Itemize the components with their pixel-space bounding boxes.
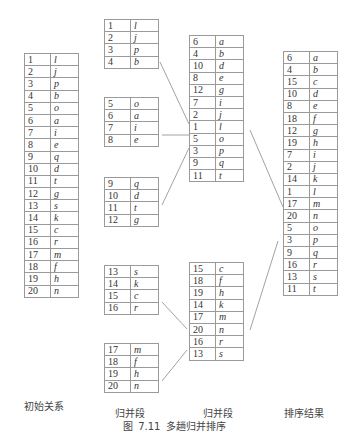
table-row: 13s bbox=[105, 266, 159, 278]
record-key: 5 bbox=[284, 222, 310, 234]
record-key: 3 bbox=[25, 78, 51, 90]
record-key: 1 bbox=[190, 121, 216, 133]
record-key: 20 bbox=[105, 380, 131, 392]
table-row: 9q bbox=[284, 247, 338, 259]
table-row: 18f bbox=[190, 275, 244, 287]
record-value: h bbox=[131, 368, 159, 380]
record-key: 17 bbox=[190, 311, 216, 323]
record-value: d bbox=[216, 60, 244, 72]
run-table-3: 9q10d11t12g bbox=[104, 177, 159, 227]
record-value: t bbox=[216, 170, 244, 182]
record-value: d bbox=[131, 190, 159, 202]
run-table-4: 13s14k15c16r bbox=[104, 265, 159, 315]
table-row: 14k bbox=[25, 212, 79, 224]
record-value: t bbox=[131, 202, 159, 214]
record-key: 5 bbox=[190, 133, 216, 145]
record-key: 6 bbox=[25, 114, 51, 126]
record-key: 16 bbox=[105, 302, 131, 314]
record-value: b bbox=[216, 48, 244, 60]
table-row: 7i bbox=[284, 149, 338, 161]
table-row: 15c bbox=[284, 76, 338, 88]
table-row: 16r bbox=[105, 302, 159, 314]
table-row: 5o bbox=[190, 133, 244, 145]
record-value: j bbox=[131, 32, 159, 44]
table-row: 17m bbox=[190, 311, 244, 323]
table-row: 7i bbox=[25, 127, 79, 139]
record-key: 10 bbox=[25, 163, 51, 175]
record-value: m bbox=[51, 249, 79, 261]
run-table-5: 17m18f19h20n bbox=[104, 343, 159, 393]
record-value: a bbox=[51, 114, 79, 126]
record-key: 15 bbox=[25, 224, 51, 236]
record-key: 14 bbox=[105, 278, 131, 290]
table-row: 10d bbox=[25, 163, 79, 175]
record-key: 11 bbox=[105, 202, 131, 214]
table-row: 10d bbox=[105, 190, 159, 202]
record-key: 7 bbox=[105, 122, 131, 134]
table-row: 6a bbox=[25, 114, 79, 126]
record-value: t bbox=[310, 283, 338, 295]
record-key: 14 bbox=[284, 173, 310, 185]
record-value: p bbox=[131, 44, 159, 56]
record-key: 16 bbox=[284, 259, 310, 271]
table-row: 14k bbox=[190, 299, 244, 311]
table-row: 2j bbox=[25, 66, 79, 78]
record-value: d bbox=[310, 88, 338, 100]
figure-caption: 图 7.11 多趟归并排序 bbox=[123, 418, 226, 433]
table-row: 12g bbox=[190, 84, 244, 96]
table-row: 9q bbox=[190, 157, 244, 169]
record-key: 3 bbox=[284, 234, 310, 246]
table-row: 6a bbox=[190, 36, 244, 48]
table-row: 7i bbox=[190, 96, 244, 108]
record-value: p bbox=[216, 145, 244, 157]
record-value: r bbox=[216, 336, 244, 348]
record-key: 6 bbox=[105, 110, 131, 122]
record-key: 12 bbox=[284, 125, 310, 137]
table-row: 17m bbox=[25, 249, 79, 261]
record-value: s bbox=[131, 266, 159, 278]
table-row: 4b bbox=[25, 90, 79, 102]
table-row: 15c bbox=[25, 224, 79, 236]
record-key: 20 bbox=[25, 285, 51, 297]
record-value: f bbox=[131, 356, 159, 368]
record-value: s bbox=[216, 348, 244, 360]
table-row: 2j bbox=[105, 32, 159, 44]
table-row: 19h bbox=[105, 368, 159, 380]
record-key: 7 bbox=[190, 96, 216, 108]
record-value: e bbox=[51, 139, 79, 151]
record-key: 9 bbox=[105, 178, 131, 190]
record-value: b bbox=[51, 90, 79, 102]
record-value: k bbox=[310, 173, 338, 185]
record-key: 3 bbox=[190, 145, 216, 157]
label-initial: 初始关系 bbox=[24, 398, 64, 413]
table-row: 1l bbox=[284, 186, 338, 198]
table-row: 5o bbox=[105, 98, 159, 110]
record-key: 1 bbox=[284, 186, 310, 198]
record-key: 7 bbox=[284, 149, 310, 161]
table-row: 19h bbox=[25, 273, 79, 285]
record-value: j bbox=[310, 161, 338, 173]
record-key: 19 bbox=[190, 287, 216, 299]
record-value: h bbox=[216, 287, 244, 299]
record-key: 11 bbox=[284, 283, 310, 295]
table-row: 20n bbox=[105, 380, 159, 392]
record-key: 8 bbox=[105, 134, 131, 146]
record-value: f bbox=[51, 261, 79, 273]
table-row: 12g bbox=[25, 188, 79, 200]
record-value: q bbox=[51, 151, 79, 163]
record-key: 8 bbox=[284, 100, 310, 112]
record-key: 7 bbox=[25, 127, 51, 139]
table-row: 17m bbox=[284, 198, 338, 210]
record-value: f bbox=[216, 275, 244, 287]
record-value: g bbox=[310, 125, 338, 137]
record-value: r bbox=[310, 259, 338, 271]
record-key: 4 bbox=[284, 64, 310, 76]
record-value: j bbox=[216, 109, 244, 121]
record-value: n bbox=[216, 323, 244, 335]
record-value: o bbox=[216, 133, 244, 145]
table-row: 3p bbox=[105, 44, 159, 56]
table-row: 18f bbox=[284, 112, 338, 124]
record-key: 9 bbox=[25, 151, 51, 163]
record-key: 16 bbox=[190, 336, 216, 348]
record-value: r bbox=[51, 236, 79, 248]
